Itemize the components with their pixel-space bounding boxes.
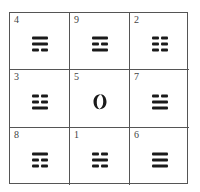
cell-number: 8 bbox=[14, 130, 19, 140]
cell-8-gen: 8 bbox=[10, 128, 70, 185]
cell-number: 2 bbox=[134, 15, 139, 25]
cell-number: 6 bbox=[134, 130, 139, 140]
trigram-qian-icon bbox=[152, 152, 168, 167]
cell-2-kun: 2 bbox=[130, 13, 189, 70]
cell-9-li: 9 bbox=[70, 13, 130, 70]
taiji-circle-icon bbox=[92, 92, 108, 110]
cell-5-center: 5 bbox=[70, 70, 130, 128]
trigram-kun-icon bbox=[152, 37, 168, 52]
trigram-zhen-icon bbox=[32, 94, 48, 109]
cell-number: 3 bbox=[14, 72, 19, 82]
trigram-li-icon bbox=[92, 37, 108, 52]
trigram-gen-icon bbox=[32, 152, 48, 167]
cell-3-zhen: 3 bbox=[10, 70, 70, 128]
trigram-dui-icon bbox=[152, 94, 168, 109]
cell-number: 9 bbox=[74, 15, 79, 25]
trigram-xun-icon bbox=[32, 37, 48, 52]
cell-number: 5 bbox=[74, 72, 79, 82]
cell-number: 1 bbox=[74, 130, 79, 140]
cell-1-kan: 1 bbox=[70, 128, 130, 185]
cell-number: 4 bbox=[14, 15, 19, 25]
trigram-kan-icon bbox=[92, 152, 108, 167]
cell-4-xun: 4 bbox=[10, 13, 70, 70]
cell-6-qian: 6 bbox=[130, 128, 189, 185]
lo-shu-grid: 4 9 2 3 5 bbox=[9, 12, 188, 184]
cell-number: 7 bbox=[134, 72, 139, 82]
cell-7-dui: 7 bbox=[130, 70, 189, 128]
